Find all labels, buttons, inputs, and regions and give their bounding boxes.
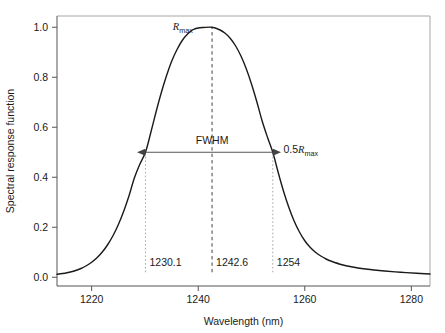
fwhm-label: FWHM bbox=[196, 134, 229, 146]
y-tick-label: 0.8 bbox=[33, 71, 48, 83]
y-tick-label: 1.0 bbox=[33, 21, 48, 33]
marker-label-left: 1230.1 bbox=[149, 256, 181, 268]
y-tick-label: 0.6 bbox=[33, 121, 48, 133]
x-tick-label: 1220 bbox=[80, 293, 104, 305]
y-axis-title: Spectral response function bbox=[4, 89, 16, 213]
y-tick-label: 0.2 bbox=[33, 221, 48, 233]
x-tick-label: 1260 bbox=[293, 293, 317, 305]
marker-label-right: 1254 bbox=[277, 256, 301, 268]
figure-background bbox=[0, 0, 445, 333]
y-tick-label: 0.4 bbox=[33, 171, 48, 183]
x-tick-label: 1280 bbox=[400, 293, 424, 305]
y-tick-label: 0.0 bbox=[33, 271, 48, 283]
chart-canvas: 0.00.20.40.60.81.0 1220124012601280 Rmax bbox=[0, 0, 445, 333]
marker-value-labels: 1230.11242.61254 bbox=[149, 256, 300, 268]
x-axis-title: Wavelength (nm) bbox=[204, 315, 284, 327]
x-tick-label: 1240 bbox=[187, 293, 211, 305]
marker-label-peak: 1242.6 bbox=[216, 256, 248, 268]
spectral-response-figure: 0.00.20.40.60.81.0 1220124012601280 Rmax bbox=[0, 0, 445, 333]
